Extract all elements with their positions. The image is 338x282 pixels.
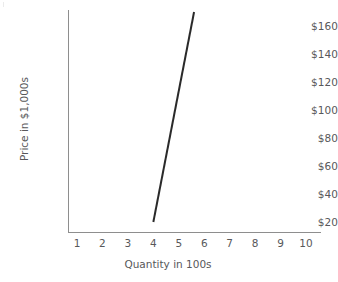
- x-tick-label: 5: [168, 238, 190, 249]
- x-axis-title: Quantity in 100s: [68, 258, 268, 270]
- x-tick-label: 1: [66, 238, 88, 249]
- y-tick-label: $60: [276, 161, 338, 172]
- x-tick-label: 3: [117, 238, 139, 249]
- y-tick-label: $120: [276, 77, 338, 88]
- y-tick-label: $140: [276, 49, 338, 60]
- x-tick-label: 2: [91, 238, 113, 249]
- x-tick-label: 4: [142, 238, 164, 249]
- y-tick-label: $20: [276, 217, 338, 228]
- y-tick-label: $40: [276, 189, 338, 200]
- x-axis-line: [68, 232, 321, 233]
- series-supply: [153, 12, 194, 222]
- y-axis-title: Price in $1,000s: [18, 49, 30, 189]
- supply-curve-line: [153, 12, 194, 222]
- x-tick-label: 10: [295, 238, 317, 249]
- x-tick-label: 9: [270, 238, 292, 249]
- x-tick-label: 7: [219, 238, 241, 249]
- x-tick-label: 6: [193, 238, 215, 249]
- x-tick-label: 8: [244, 238, 266, 249]
- chart-container: $20$40$60$80$100$120$140$160 12345678910…: [0, 0, 338, 282]
- y-tick-label: $160: [276, 21, 338, 32]
- y-tick-label: $100: [276, 105, 338, 116]
- y-tick-label: $80: [276, 133, 338, 144]
- scan-artifact: [3, 2, 4, 7]
- y-axis-line: [68, 10, 69, 233]
